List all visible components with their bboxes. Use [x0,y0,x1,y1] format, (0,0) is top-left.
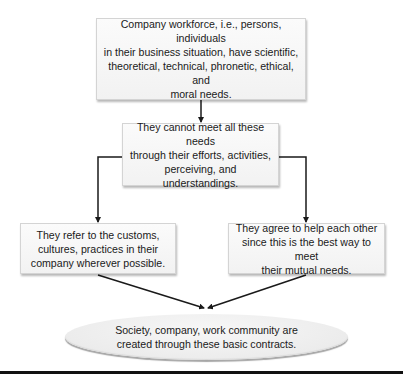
horizontal-rule-divider [0,371,403,374]
node-text-line: cultures, practices in their [31,242,165,256]
node-text-line: through their efforts, activities, [127,148,274,162]
arrow-middle-to-right [279,157,306,222]
flowchart-diagram: Company workforce, i.e., persons, indivi… [0,0,403,379]
node-text-line: in their business situation, have scient… [101,45,301,59]
node-text-line: They agree to help each other [233,221,380,235]
node-text-line: perceiving, and understandings. [127,162,274,190]
arrow-middle-to-left [98,157,122,222]
arrow-left-to-bottom [98,275,204,308]
node-text-line: created through these basic contracts. [115,337,298,351]
node-text-line: moral needs. [101,87,301,101]
node-text-line: Society, company, work community are [115,323,298,337]
node-text-line: They refer to the customs, [31,228,165,242]
node-cannot-meet-needs: They cannot meet all these needs through… [122,123,279,186]
node-text-line: theoretical, technical, phronetic, ethic… [101,59,301,87]
node-text-line: They cannot meet all these needs [127,120,274,148]
node-text-line: since this is the best way to meet [233,235,380,263]
node-help-each-other: They agree to help each other since this… [228,223,385,274]
node-workforce-needs: Company workforce, i.e., persons, indivi… [96,18,306,100]
node-society-created: Society, company, work community are cre… [65,314,348,360]
node-refer-to-customs: They refer to the customs, cultures, pra… [20,223,176,274]
node-text-line: Company workforce, i.e., persons, indivi… [101,17,301,45]
node-text-line: their mutual needs. [233,263,380,277]
arrow-right-to-bottom [208,275,306,308]
node-text-line: company wherever possible. [31,256,165,270]
